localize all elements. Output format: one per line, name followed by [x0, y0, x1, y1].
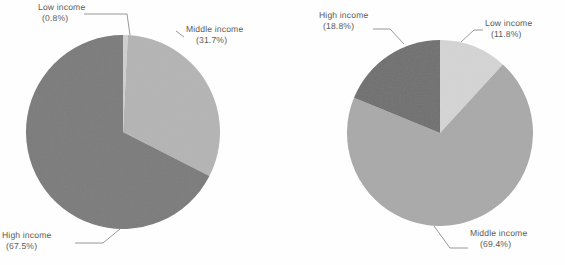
pie-charts-canvas [0, 0, 565, 265]
right-label-high-income: High income (18.8%) [319, 10, 368, 32]
left-label-middle-income: Middle income (31.7%) [186, 24, 243, 46]
right-label-middle-income-text: Middle income [470, 228, 527, 238]
left-label-low-income-text: Low income [38, 2, 85, 12]
pie-chart-figure: Low income (0.8%) Middle income (31.7%) … [0, 0, 565, 265]
left-label-low-income-pct: (0.8%) [38, 13, 85, 24]
left-label-high-income-pct: (67.5%) [2, 241, 51, 252]
left-label-middle-income-pct: (31.7%) [186, 35, 243, 46]
right-label-middle-income: Middle income (69.4%) [470, 228, 527, 250]
left-label-high-income: High income (67.5%) [2, 230, 51, 252]
right-label-high-income-pct: (18.8%) [319, 21, 368, 32]
leader-line-left-middle [176, 31, 184, 37]
right-label-middle-income-pct: (69.4%) [470, 239, 527, 250]
right-pie-chart [347, 40, 533, 226]
right-label-low-income: Low income (11.8%) [485, 18, 532, 40]
leader-line-right-low [461, 30, 483, 42]
left-label-high-income-text: High income [2, 230, 51, 240]
right-label-low-income-text: Low income [485, 18, 532, 28]
left-label-middle-income-text: Middle income [186, 24, 243, 34]
left-pie-chart [26, 35, 220, 229]
right-label-high-income-text: High income [319, 10, 368, 20]
right-label-low-income-pct: (11.8%) [485, 29, 532, 40]
leader-line-right-high [373, 29, 404, 44]
leader-line-right-middle [434, 226, 468, 248]
left-label-low-income: Low income (0.8%) [38, 2, 85, 24]
leader-line-left-low [84, 14, 130, 35]
leader-line-left-high [75, 229, 120, 243]
